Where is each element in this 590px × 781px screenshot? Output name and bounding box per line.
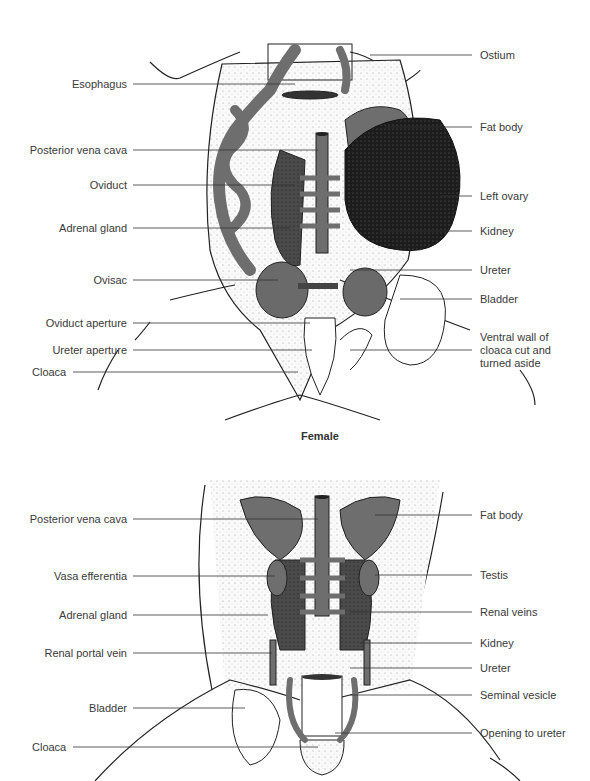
label-renal-veins: Renal veins [480, 606, 537, 619]
label-fat-body-male: Fat body [480, 509, 523, 522]
label-oviduct-aperture: Oviduct aperture [46, 317, 127, 330]
label-esophagus: Esophagus [72, 78, 127, 91]
label-kidney-male: Kidney [480, 637, 514, 650]
label-left-ovary: Left ovary [480, 190, 528, 203]
label-bladder-female: Bladder [480, 293, 518, 306]
label-vasa-efferentia: Vasa efferentia [54, 570, 127, 583]
label-adrenal-gland-female: Adrenal gland [59, 222, 127, 235]
label-renal-portal-vein: Renal portal vein [44, 647, 127, 660]
label-oviduct: Oviduct [90, 179, 127, 192]
caption-female: Female [301, 430, 339, 442]
label-cloaca-female: Cloaca [32, 366, 66, 379]
label-ventral-wall-cloaca: Ventral wall of cloaca cut and turned as… [480, 331, 580, 370]
female-figure [98, 44, 535, 420]
label-fat-body-female: Fat body [480, 121, 523, 134]
male-figure [95, 480, 520, 781]
label-cloaca-male: Cloaca [32, 741, 66, 754]
label-ovisac: Ovisac [93, 274, 127, 287]
label-opening-to-ureter: Opening to ureter [480, 727, 566, 740]
label-testis: Testis [480, 569, 508, 582]
label-ureter-female: Ureter [480, 264, 511, 277]
label-ureter-aperture: Ureter aperture [52, 344, 127, 357]
label-seminal-vesicle: Seminal vesicle [480, 689, 556, 702]
label-posterior-vena-cava-female: Posterior vena cava [30, 144, 127, 157]
label-ureter-male: Ureter [480, 662, 511, 675]
label-adrenal-gland-male: Adrenal gland [59, 609, 127, 622]
label-ostium: Ostium [480, 49, 515, 62]
label-bladder-male: Bladder [89, 702, 127, 715]
urogenital-diagram: Esophagus Posterior vena cava Oviduct Ad… [0, 0, 590, 781]
label-kidney-female: Kidney [480, 225, 514, 238]
label-posterior-vena-cava-male: Posterior vena cava [30, 513, 127, 526]
